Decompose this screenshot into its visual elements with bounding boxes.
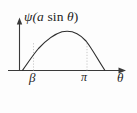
fn-psi-open: ψ( [24,9,37,24]
y-axis-arrowhead [17,18,22,25]
fn-a: a [37,9,44,24]
fn-close-paren: ) [74,9,79,24]
x-axis-label-theta: θ [117,71,123,84]
psi-curve [23,31,105,70]
figure-container: ψ(a sin θ) β π θ [0,0,137,113]
tick-label-pi: π [81,71,87,83]
y-axis-function-label: ψ(a sin θ) [24,10,78,24]
fn-sin: sin [44,9,67,24]
tick-label-beta: β [29,71,35,84]
fn-theta: θ [67,9,74,24]
